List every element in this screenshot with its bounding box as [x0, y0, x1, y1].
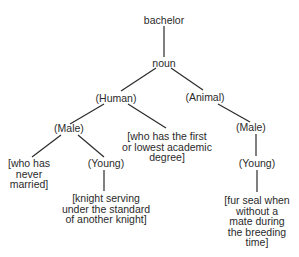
node-male-human: (Male) [54, 123, 84, 134]
node-knight: [knight serving under the standard of an… [62, 193, 150, 225]
node-label: bachelor [144, 15, 184, 26]
node-fur-seal: [fur seal when without a mate during the… [224, 195, 289, 248]
edge-human-academic-degree [128, 104, 166, 128]
definition-line: of another knight] [62, 214, 150, 225]
node-human: (Human) [96, 93, 137, 104]
node-male-animal: (Male) [236, 122, 266, 133]
node-animal: (Animal) [185, 92, 224, 103]
node-label: (Male) [54, 123, 84, 134]
edge-animal-male [218, 104, 250, 122]
definition-line: mate during [224, 216, 289, 227]
definition-line: [knight serving [62, 193, 150, 204]
definition-line: [who has [8, 158, 50, 169]
node-noun: noun [152, 58, 175, 69]
edge-noun-human [121, 68, 156, 91]
node-young-human: (Young) [88, 158, 124, 169]
definition-line: degree] [122, 152, 212, 163]
definition-line: married] [8, 179, 50, 190]
node-bachelor: bachelor [144, 15, 184, 26]
node-young-animal: (Young) [239, 158, 275, 169]
definition-line: [fur seal when [224, 195, 289, 206]
node-label: (Human) [96, 93, 137, 104]
edge-male-young [78, 135, 104, 157]
edge-human-male [70, 104, 104, 124]
node-label: (Young) [239, 158, 275, 169]
definition-line: [who has the first [122, 131, 212, 142]
definition-line: time] [224, 237, 289, 248]
node-never-married: [who has never married] [8, 158, 50, 190]
node-label: (Young) [88, 158, 124, 169]
node-academic-degree: [who has the first or lowest academic de… [122, 131, 212, 163]
node-label: noun [152, 58, 175, 69]
node-label: (Animal) [185, 92, 224, 103]
edge-male-never-married [32, 135, 61, 157]
edge-noun-animal [171, 68, 203, 90]
node-label: (Male) [236, 122, 266, 133]
